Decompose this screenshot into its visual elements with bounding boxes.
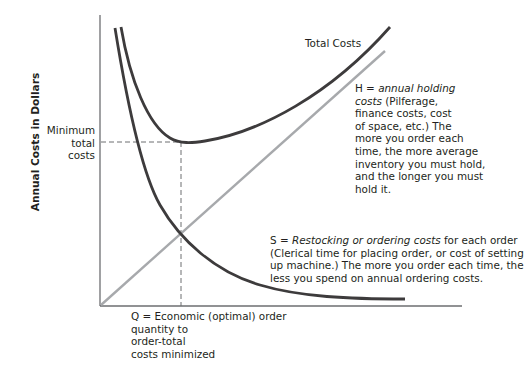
optimal-quantity-label: Q = Economic (optimal) order quantity to… — [131, 310, 287, 360]
minimum-total-costs-label: Minimum total costs — [40, 124, 95, 162]
holding-line2-rest: (Pilferage, — [382, 95, 438, 107]
holding-line-8: and the longer you must — [355, 170, 485, 183]
holding-cost-annotation: H = annual holding costs (Pilferage, fin… — [355, 82, 485, 195]
ordering-italic: Restocking or ordering costs — [292, 234, 441, 246]
holding-line-7: inventory you must hold, — [355, 158, 485, 171]
ordering-prefix: S = — [270, 234, 292, 246]
minimum-line-2: total — [40, 137, 95, 150]
ordering-line-2: (Clerical time for placing order, or cos… — [270, 247, 524, 260]
ordering-line-4: less you spend on annual ordering costs. — [270, 272, 524, 285]
holding-line-2: costs (Pilferage, — [355, 95, 485, 108]
ordering-cost-annotation: S = Restocking or ordering costs for eac… — [270, 234, 524, 284]
ordering-line-3: up machine.) The more you order each tim… — [270, 259, 524, 272]
minimum-line-1: Minimum — [40, 124, 95, 137]
quantity-line-4: costs minimized — [131, 348, 287, 361]
total-costs-label: Total Costs — [305, 37, 361, 50]
holding-line-3: finance costs, cost — [355, 107, 485, 120]
holding-line-1: H = annual holding — [355, 82, 485, 95]
holding-line-4: of space, etc.) The — [355, 120, 485, 133]
holding-line-9: hold it. — [355, 183, 485, 196]
minimum-line-3: costs — [40, 149, 95, 162]
ordering-line-1: S = Restocking or ordering costs for eac… — [270, 234, 524, 247]
holding-line-5: more you order each — [355, 132, 485, 145]
holding-line-6: time, the more average — [355, 145, 485, 158]
quantity-line-3: order-total — [131, 335, 287, 348]
ordering-line1-rest: for each order — [441, 234, 518, 246]
holding-prefix: H = — [355, 82, 378, 94]
quantity-line-2: quantity to — [131, 323, 287, 336]
holding-italic-2: costs — [355, 95, 382, 107]
holding-italic-1: annual holding — [378, 82, 455, 94]
quantity-line-1: Q = Economic (optimal) order — [131, 310, 287, 323]
